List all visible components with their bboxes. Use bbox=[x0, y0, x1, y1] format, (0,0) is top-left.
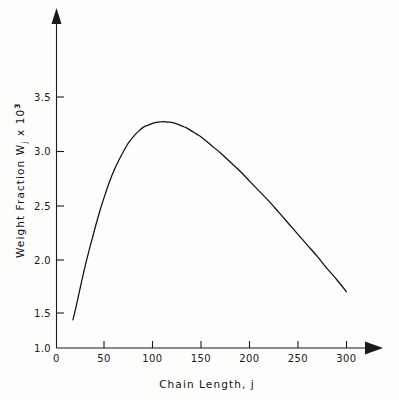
x-axis-title: Chain Length, j bbox=[159, 378, 255, 390]
y-tick-label-3-0: 3.0 bbox=[34, 146, 51, 157]
x-tick-label-0: 0 bbox=[53, 353, 60, 364]
y-axis-ticks bbox=[57, 97, 65, 313]
x-tick-label-300: 300 bbox=[336, 353, 356, 364]
x-tick-label-100: 100 bbox=[142, 353, 162, 364]
x-axis-ticks bbox=[104, 341, 347, 348]
y-tick-label-3-5: 3.5 bbox=[34, 92, 51, 103]
y-axis-title-main: Weight Fraction W bbox=[14, 144, 26, 258]
y-tick-label-1-0: 1.0 bbox=[34, 343, 51, 354]
x-tick-label-150: 150 bbox=[191, 353, 211, 364]
y-tick-label-1-5: 1.5 bbox=[34, 308, 51, 319]
svg-text:Weight Fraction Wj x 103: Weight Fraction Wj x 103 bbox=[13, 102, 29, 258]
chart-canvas: 3.5 3.0 2.5 2.0 1.5 1.0 0 50 100 150 200… bbox=[0, 0, 399, 400]
x-axis-tick-labels: 0 50 100 150 200 250 300 bbox=[53, 353, 357, 364]
data-curve bbox=[73, 122, 347, 320]
x-tick-label-250: 250 bbox=[288, 353, 308, 364]
x-axis-arrow-icon bbox=[365, 342, 383, 355]
y-tick-label-2-0: 2.0 bbox=[34, 255, 51, 266]
x-tick-label-50: 50 bbox=[97, 353, 111, 364]
x-tick-label-200: 200 bbox=[239, 353, 259, 364]
y-axis-tick-labels: 3.5 3.0 2.5 2.0 1.5 1.0 bbox=[34, 92, 51, 354]
y-axis-title: Weight Fraction Wj x 103 bbox=[13, 102, 29, 258]
chart-figure: 3.5 3.0 2.5 2.0 1.5 1.0 0 50 100 150 200… bbox=[0, 0, 399, 400]
y-axis-title-mid: x 10 bbox=[14, 109, 26, 141]
y-axis-title-superscript: 3 bbox=[13, 102, 22, 108]
y-tick-label-2-5: 2.5 bbox=[34, 201, 51, 212]
y-axis-arrow-icon bbox=[52, 8, 62, 24]
